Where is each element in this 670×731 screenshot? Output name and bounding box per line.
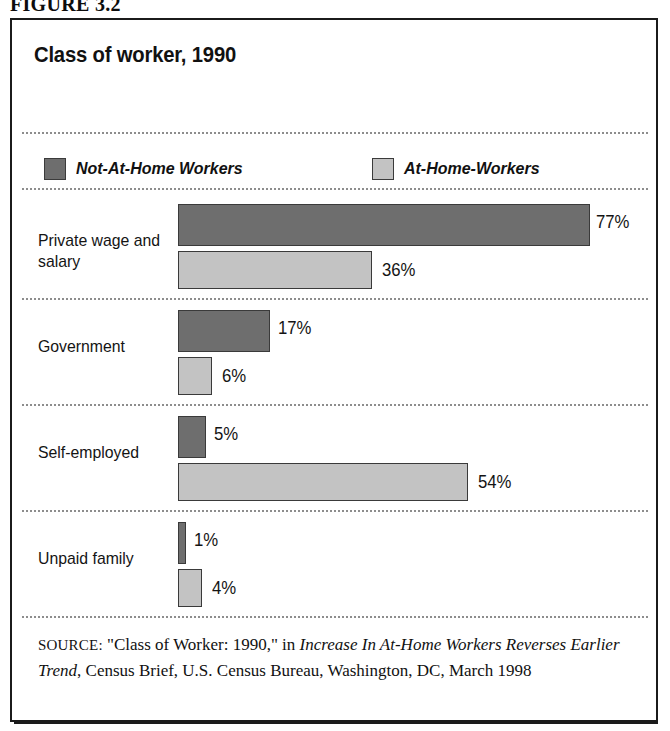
dotted-rule-group-3: [22, 510, 648, 512]
bar-at-home-unpaid-family: [178, 569, 202, 607]
chart-title: Class of worker, 1990: [34, 42, 236, 68]
bar-group-unpaid-family: Unpaid family 1% 4%: [12, 516, 656, 622]
source-connector: in: [282, 635, 295, 654]
dotted-rule-above-legend: [22, 132, 648, 134]
source-prefix: SOURCE:: [38, 637, 103, 653]
figure-box: Class of worker, 1990 Not-At-Home Worker…: [10, 18, 658, 722]
legend-label-at-home-workers: At-Home-Workers: [404, 159, 540, 179]
legend-label-not-at-home-workers: Not-At-Home Workers: [76, 159, 243, 179]
legend-item-not-at-home-workers: Not-At-Home Workers: [44, 158, 253, 180]
bar-group-government: Government 17% 6%: [12, 304, 656, 410]
dotted-rule-group-1: [22, 298, 648, 300]
bar-at-home-private-wage-and-salary: [178, 251, 372, 289]
chart-legend: Not-At-Home Workers At-Home-Workers: [12, 150, 656, 198]
legend-swatch-light: [372, 158, 394, 180]
bar-value-at-home-unpaid-family: 4%: [212, 578, 236, 599]
dotted-rule-group-4: [22, 616, 648, 618]
bar-not-at-home-self-employed: [178, 416, 206, 458]
bar-at-home-government: [178, 357, 212, 395]
bar-value-not-at-home-private-wage-and-salary: 77%: [596, 212, 630, 233]
legend-swatch-dark: [44, 158, 66, 180]
bar-value-at-home-self-employed: 54%: [478, 472, 512, 493]
bar-value-at-home-private-wage-and-salary: 36%: [382, 260, 416, 281]
bar-group-self-employed: Self-employed 5% 54%: [12, 410, 656, 516]
bar-value-not-at-home-government: 17%: [278, 318, 312, 339]
category-label-self-employed: Self-employed: [38, 442, 168, 463]
plot-area: Private wage and salary 77% 36% Governme…: [12, 198, 656, 622]
category-label-government: Government: [38, 336, 168, 357]
bar-at-home-self-employed: [178, 463, 468, 501]
source-quoted-title: "Class of Worker: 1990,": [107, 635, 278, 654]
source-note: SOURCE: "Class of Worker: 1990," in Incr…: [38, 632, 626, 683]
bar-not-at-home-unpaid-family: [178, 522, 186, 564]
bar-not-at-home-government: [178, 310, 270, 352]
bar-value-not-at-home-unpaid-family: 1%: [194, 530, 218, 551]
dotted-rule-group-2: [22, 404, 648, 406]
bar-value-not-at-home-self-employed: 5%: [214, 424, 238, 445]
legend-item-at-home-workers: At-Home-Workers: [372, 158, 548, 180]
source-rest: , Census Brief, U.S. Census Bureau, Wash…: [77, 661, 531, 680]
category-label-unpaid-family: Unpaid family: [38, 548, 168, 569]
bar-not-at-home-private-wage-and-salary: [178, 204, 590, 246]
bar-group-private-wage-and-salary: Private wage and salary 77% 36%: [12, 198, 656, 304]
figure-label: FIGURE 3.2: [10, 0, 121, 16]
dotted-rule-below-legend: [22, 188, 648, 190]
category-label-private-wage-and-salary: Private wage and salary: [38, 230, 168, 272]
bar-value-at-home-government: 6%: [222, 366, 246, 387]
